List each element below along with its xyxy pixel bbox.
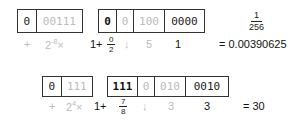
row2-power: 24× xyxy=(66,100,82,113)
row2-shifted-bits: 010 xyxy=(155,77,186,96)
row1-exponent-bits: 00111 xyxy=(37,10,82,32)
row2-result: = 30 xyxy=(243,100,265,112)
row1-arrow-down-icon: ↓ xyxy=(124,38,130,50)
row2-one-plus: 1+ xyxy=(94,100,107,112)
row2-hidden-bit: 0 xyxy=(138,77,155,96)
row2-mantissa-fraction: 7 8 xyxy=(119,97,127,116)
row1-result: = 0.00390625 xyxy=(219,38,287,50)
row2-power-times: × xyxy=(76,101,82,113)
row2-mantissa-box: 111 0 010 0010 xyxy=(107,76,229,97)
row1-frac-num: 0 xyxy=(107,35,115,45)
row1-sign-exponent-box: 0 00111 xyxy=(17,9,83,33)
row1-result-fraction-num: 1 xyxy=(251,10,262,22)
row1-lead-bits: 0 xyxy=(99,10,117,32)
row1-mantissa-fraction: 0 2 xyxy=(107,35,115,54)
row1-sign-bit: 0 xyxy=(18,10,37,32)
row1-mantissa-box: 0 0 100 0000 xyxy=(98,9,205,33)
row2-lead-bits: 111 xyxy=(108,77,138,96)
row2-exponent-bits: 111 xyxy=(62,77,92,96)
row1-shifted-bits: 100 xyxy=(134,10,165,32)
row2-frac-num: 7 xyxy=(119,97,127,107)
row2-arrow-down-icon: ↓ xyxy=(142,100,148,112)
row1-one-plus: 1+ xyxy=(90,38,103,50)
row2-sign-bit: 0 xyxy=(43,77,62,96)
row2-sign-op: + xyxy=(49,100,55,112)
row1-sign-op: + xyxy=(24,38,30,50)
row2-rest-value: 3 xyxy=(204,100,210,112)
row2-rest-bits: 0010 xyxy=(186,77,228,96)
row1-shift-amount: 5 xyxy=(146,38,152,50)
row1-result-fraction: 1 256 xyxy=(249,10,264,33)
row1-hidden-bit: 0 xyxy=(117,10,134,32)
row1-frac-den: 2 xyxy=(109,45,113,54)
row1-power-times: × xyxy=(57,39,63,51)
row2-frac-den: 8 xyxy=(121,107,125,116)
row1-power: 2-8× xyxy=(45,38,64,51)
row1-result-fraction-den: 256 xyxy=(249,22,264,33)
row2-sign-exponent-box: 0 111 xyxy=(42,76,93,97)
row1-rest-value: 1 xyxy=(175,38,181,50)
row1-rest-bits: 0000 xyxy=(165,10,204,32)
row2-shift-amount: 3 xyxy=(168,100,174,112)
